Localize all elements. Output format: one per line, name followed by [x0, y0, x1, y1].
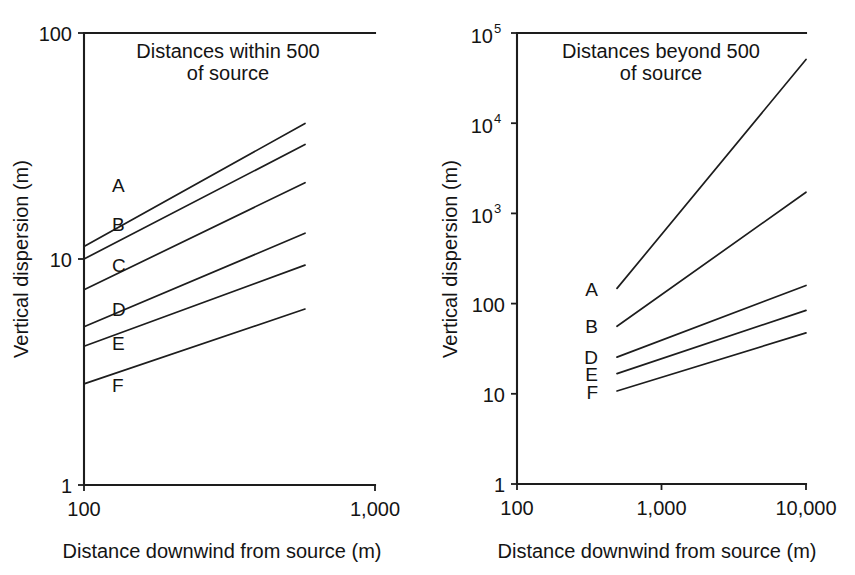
right-ylabel-1e4: 10 4: [471, 111, 501, 137]
left-panel-title-line1: Distances within 500: [136, 40, 319, 62]
right-ylabel-1e3-base: 10: [471, 205, 493, 227]
left-x-axis-title: Distance downwind from source (m): [63, 540, 382, 562]
right-xlabel-100: 100: [500, 497, 533, 519]
right-ylabel-10: 10: [483, 384, 505, 406]
left-xlabel-1000: 1,000: [350, 498, 400, 520]
right-ylabel-1e5-base: 10: [471, 25, 493, 47]
right-plot-frame: [517, 33, 806, 484]
right-xlabel-10000: 10,000: [775, 497, 836, 519]
right-panel-title-line1: Distances beyond 500: [562, 40, 760, 62]
left-curve-label-C: C: [112, 255, 126, 276]
right-ylabel-1: 1: [494, 474, 505, 496]
right-y-axis-title: Vertical dispersion (m): [439, 160, 461, 358]
left-curve-label-E: E: [112, 333, 125, 354]
left-ylabel-1: 1: [61, 475, 72, 497]
left-plot-frame: [84, 33, 375, 485]
left-series-B: [84, 145, 305, 260]
right-curve-label-F: F: [586, 382, 598, 403]
right-curve-label-A: A: [585, 279, 598, 300]
left-xlabel-100: 100: [67, 498, 100, 520]
right-x-axis-title: Distance downwind from source (m): [498, 540, 817, 562]
left-ylabel-10: 10: [50, 249, 72, 271]
right-ylabel-1e5-exp: 5: [494, 21, 501, 36]
figure-root: A B C D E F 100 10 1 100 1,000 Distances…: [0, 0, 855, 575]
right-plot-svg: A B D E F 10 5 10 4 10 3 100 10 1 100 1,: [425, 0, 855, 575]
left-panel-title-line2: of source: [187, 62, 269, 84]
right-ylabel-1e3: 10 3: [471, 201, 501, 227]
chart-panel-left: A B C D E F 100 10 1 100 1,000 Distances…: [0, 0, 425, 575]
left-curve-label-F: F: [112, 375, 124, 396]
right-ylabel-1e5: 10 5: [471, 21, 501, 47]
right-curve-label-B: B: [585, 316, 598, 337]
right-xlabel-1000: 1,000: [636, 497, 686, 519]
chart-panel-right: A B D E F 10 5 10 4 10 3 100 10 1 100 1,: [425, 0, 855, 575]
right-ylabel-100: 100: [472, 294, 505, 316]
left-curve-label-B: B: [112, 214, 125, 235]
right-panel-title-line2: of source: [620, 62, 702, 84]
right-series-B: [617, 192, 806, 326]
left-ylabel-100: 100: [39, 23, 72, 45]
left-y-axis-title: Vertical dispersion (m): [10, 160, 32, 358]
right-series-A: [617, 60, 806, 289]
right-ylabel-1e4-exp: 4: [494, 111, 501, 126]
right-ylabel-1e3-exp: 3: [494, 201, 501, 216]
right-series-D: [617, 286, 806, 358]
left-plot-svg: A B C D E F 100 10 1 100 1,000 Distances…: [0, 0, 425, 575]
left-curve-label-D: D: [112, 299, 126, 320]
left-curve-label-A: A: [112, 175, 125, 196]
right-ylabel-1e4-base: 10: [471, 115, 493, 137]
